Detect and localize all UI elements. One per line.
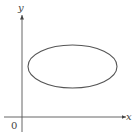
ellipse-curve [28,45,117,88]
x-axis-label: x [126,111,132,122]
coordinate-diagram: y x 0 [0,0,135,135]
origin-label: 0 [11,120,17,131]
y-axis-label: y [17,2,24,13]
